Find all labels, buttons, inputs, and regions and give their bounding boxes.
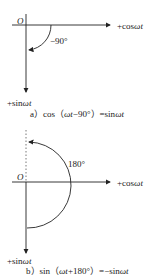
caption-mid: −90°）=sin <box>73 109 115 119</box>
x-axis-label-prefix: +cos <box>117 178 134 188</box>
x-axis-label-a: +cosωt <box>117 21 143 31</box>
caption-var2: ωt <box>115 109 124 119</box>
x-axis-label-var: ωt <box>134 178 143 188</box>
angle-label-a: −90° <box>50 36 68 46</box>
y-axis-label-var: ωt <box>23 98 32 108</box>
caption-a: a）cos（ωt−90°）=sinωt <box>30 109 124 119</box>
x-axis-label-prefix: +cos <box>117 21 134 31</box>
diagram-a <box>12 14 110 92</box>
x-axis-label-b: +cosωt <box>117 178 143 188</box>
caption-var: ωt <box>59 266 68 276</box>
y-axis-label-b: +sinωt <box>7 256 31 266</box>
origin-label-a: O <box>17 16 24 26</box>
rotation-arc-b <box>27 142 71 228</box>
x-axis-label-var: ωt <box>134 21 143 31</box>
rotation-arc-a <box>29 25 51 50</box>
caption-b: b）sin（ωt+180°）=−sinωt <box>26 266 129 276</box>
phasor-diagrams <box>0 0 159 280</box>
caption-mid: +180°）=−sin <box>68 266 120 276</box>
caption-prefix: a）cos（ <box>30 109 64 119</box>
caption-prefix: b）sin（ <box>26 266 59 276</box>
y-axis-label-prefix: +sin <box>7 98 23 108</box>
y-axis-label-var: ωt <box>23 256 32 266</box>
diagram-b <box>12 130 110 253</box>
caption-var2: ωt <box>120 266 129 276</box>
origin-label-b: O <box>17 172 24 182</box>
caption-var: ωt <box>64 109 73 119</box>
y-axis-label-a: +sinωt <box>7 98 31 108</box>
angle-label-b: 180° <box>68 159 85 169</box>
y-axis-label-prefix: +sin <box>7 256 23 266</box>
